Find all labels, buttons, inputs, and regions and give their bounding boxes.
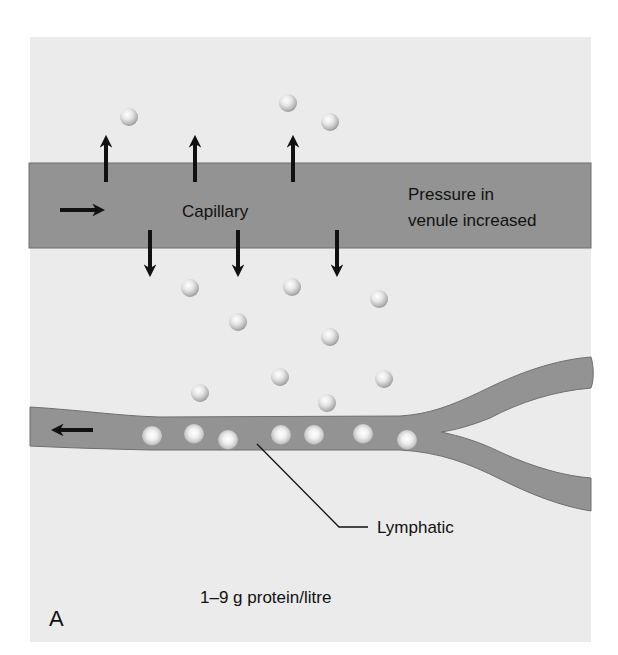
pressure-label-line1: Pressure in — [408, 185, 494, 204]
protein-sphere — [353, 424, 373, 444]
protein-sphere — [304, 425, 324, 445]
capillary-label: Capillary — [182, 202, 249, 221]
protein-sphere — [271, 368, 289, 386]
protein-sphere — [321, 328, 339, 346]
protein-sphere — [279, 94, 297, 112]
protein-sphere — [184, 424, 204, 444]
lymphatic-label: Lymphatic — [377, 518, 454, 537]
protein-sphere — [229, 313, 247, 331]
protein-sphere — [321, 113, 339, 131]
protein-sphere — [218, 430, 238, 450]
protein-sphere — [375, 370, 393, 388]
protein-sphere — [318, 394, 336, 412]
protein-sphere — [120, 108, 138, 126]
protein-sphere — [370, 290, 388, 308]
pressure-label-line2: venule increased — [408, 211, 537, 230]
capillary-vessel — [29, 163, 591, 248]
protein-sphere — [283, 278, 301, 296]
protein-sphere — [397, 430, 417, 450]
panel-letter: A — [49, 606, 64, 631]
protein-concentration-note: 1–9 g protein/litre — [200, 588, 331, 607]
protein-sphere — [181, 279, 199, 297]
protein-sphere — [191, 384, 209, 402]
protein-sphere — [271, 425, 291, 445]
panel-background — [30, 37, 591, 642]
capillary: Capillary Pressure in venule increased — [29, 163, 591, 248]
protein-sphere — [142, 426, 162, 446]
lymph-formation-diagram: Capillary Pressure in venule increased — [0, 0, 618, 655]
